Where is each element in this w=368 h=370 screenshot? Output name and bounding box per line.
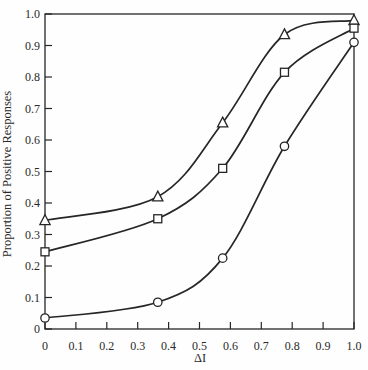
y-tick-label: 0.9 — [25, 39, 40, 53]
circle-marker — [41, 314, 49, 322]
y-tick-label: 0.7 — [25, 102, 40, 116]
y-tick-label: 0.3 — [25, 228, 40, 242]
circle-marker — [154, 298, 162, 306]
y-tick-label: 0.4 — [25, 196, 40, 210]
square-marker — [41, 248, 49, 256]
x-axis-title: ΔI — [194, 351, 206, 365]
square-marker — [219, 164, 227, 172]
x-tick-label: 0.9 — [316, 339, 331, 353]
series-line-upper-curve — [45, 20, 354, 220]
x-tick-label: 0.8 — [285, 339, 300, 353]
y-tick-label: 0.5 — [25, 165, 40, 179]
y-tick-label: 0 — [34, 322, 40, 336]
circle-marker — [218, 254, 226, 262]
triangle-marker — [153, 191, 163, 201]
y-tick-label: 0.8 — [25, 70, 40, 84]
series-line-middle-curve — [45, 28, 354, 252]
triangle-marker — [279, 29, 289, 39]
x-tick-label: 0.6 — [223, 339, 238, 353]
plot-area: 00.10.20.30.40.50.60.70.80.91.000.10.20.… — [25, 7, 362, 353]
circle-marker — [350, 38, 358, 46]
x-tick-label: 0.4 — [161, 339, 176, 353]
y-axis-title: Proportion of Positive Responses — [0, 91, 14, 257]
x-tick-label: 0.7 — [254, 339, 269, 353]
square-marker — [350, 24, 358, 32]
x-tick-label: 0.2 — [99, 339, 114, 353]
y-tick-label: 0.2 — [25, 259, 40, 273]
series-line-lower-curve — [45, 42, 354, 318]
x-tick-label: 0 — [42, 339, 48, 353]
circle-marker — [280, 142, 288, 150]
figure-page: 00.10.20.30.40.50.60.70.80.91.000.10.20.… — [0, 0, 368, 370]
x-tick-label: 0.1 — [68, 339, 83, 353]
x-tick-label: 0.3 — [130, 339, 145, 353]
square-marker — [280, 68, 288, 76]
square-marker — [154, 215, 162, 223]
y-tick-label: 0.6 — [25, 133, 40, 147]
x-tick-label: 1.0 — [347, 339, 362, 353]
y-tick-label: 1.0 — [25, 7, 40, 21]
y-tick-label: 0.1 — [25, 291, 40, 305]
psychometric-function-chart: 00.10.20.30.40.50.60.70.80.91.000.10.20.… — [0, 0, 368, 370]
triangle-marker — [349, 15, 359, 25]
